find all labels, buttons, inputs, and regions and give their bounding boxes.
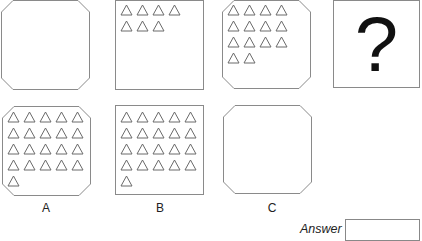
triangle-icon: [275, 20, 291, 36]
triangle-icon: [23, 143, 39, 159]
triangle-grid: [227, 4, 291, 68]
triangle-icon: [120, 111, 136, 127]
triangle-icon: [120, 175, 136, 191]
triangle-icon: [23, 159, 39, 175]
triangle-grid: [7, 111, 87, 191]
sequence-panel-3: [222, 0, 311, 89]
triangle-icon: [184, 143, 200, 159]
triangle-icon: [7, 175, 23, 191]
option-c[interactable]: [223, 105, 312, 194]
answer-label: Answer: [300, 222, 342, 236]
triangle-icon: [7, 159, 23, 175]
triangle-icon: [168, 127, 184, 143]
triangle-icon: [152, 111, 168, 127]
triangle-icon: [168, 143, 184, 159]
triangle-icon: [136, 143, 152, 159]
triangle-icon: [243, 20, 259, 36]
triangle-icon: [168, 4, 184, 20]
sequence-panel-missing: ?: [333, 0, 420, 88]
triangle-icon: [152, 143, 168, 159]
triangle-icon: [227, 36, 243, 52]
option-a-label: A: [36, 201, 56, 215]
triangle-icon: [275, 4, 291, 20]
triangle-icon: [259, 4, 275, 20]
triangle-icon: [55, 111, 71, 127]
option-a[interactable]: [2, 106, 91, 196]
triangle-grid: [120, 111, 200, 191]
triangle-icon: [39, 127, 55, 143]
triangle-icon: [227, 52, 243, 68]
sequence-panel-2: [115, 0, 204, 90]
triangle-icon: [120, 143, 136, 159]
triangle-icon: [71, 111, 87, 127]
triangle-icon: [39, 159, 55, 175]
triangle-icon: [136, 111, 152, 127]
option-b-label: B: [150, 201, 170, 215]
option-c-label: C: [262, 201, 282, 215]
triangle-grid: [120, 4, 184, 36]
triangle-icon: [136, 159, 152, 175]
triangle-icon: [120, 159, 136, 175]
triangle-icon: [152, 159, 168, 175]
triangle-icon: [55, 127, 71, 143]
triangle-icon: [120, 127, 136, 143]
octagon-frame: [223, 105, 312, 194]
triangle-icon: [184, 111, 200, 127]
triangle-icon: [243, 36, 259, 52]
triangle-icon: [243, 52, 259, 68]
answer-input[interactable]: [345, 219, 420, 241]
triangle-icon: [184, 159, 200, 175]
triangle-icon: [39, 111, 55, 127]
triangle-icon: [55, 143, 71, 159]
triangle-icon: [120, 20, 136, 36]
triangle-icon: [136, 127, 152, 143]
triangle-icon: [184, 127, 200, 143]
triangle-icon: [39, 143, 55, 159]
triangle-icon: [243, 4, 259, 20]
triangle-icon: [259, 20, 275, 36]
triangle-icon: [152, 20, 168, 36]
triangle-icon: [23, 127, 39, 143]
triangle-icon: [71, 159, 87, 175]
triangle-icon: [168, 159, 184, 175]
triangle-icon: [259, 36, 275, 52]
triangle-icon: [7, 111, 23, 127]
triangle-icon: [55, 159, 71, 175]
triangle-icon: [136, 4, 152, 20]
triangle-icon: [71, 127, 87, 143]
triangle-icon: [152, 127, 168, 143]
triangle-icon: [152, 4, 168, 20]
sequence-panel-1: [1, 0, 90, 90]
triangle-icon: [168, 111, 184, 127]
question-mark: ?: [333, 0, 420, 88]
triangle-icon: [71, 143, 87, 159]
triangle-icon: [136, 20, 152, 36]
triangle-icon: [120, 4, 136, 20]
triangle-icon: [275, 36, 291, 52]
triangle-icon: [227, 4, 243, 20]
triangle-icon: [7, 127, 23, 143]
octagon-frame: [1, 0, 90, 90]
triangle-icon: [23, 111, 39, 127]
triangle-icon: [7, 143, 23, 159]
option-b[interactable]: [115, 105, 204, 195]
triangle-icon: [227, 20, 243, 36]
